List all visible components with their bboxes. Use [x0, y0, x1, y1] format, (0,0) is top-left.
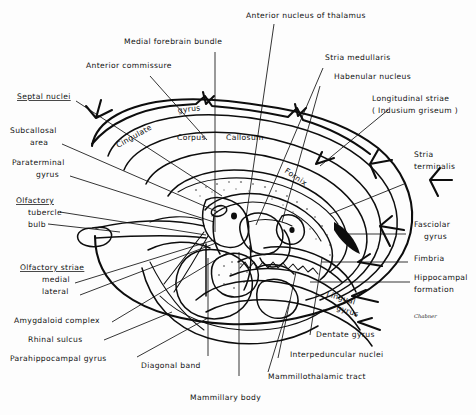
- label-olfactory-bulb: bulb: [28, 220, 46, 229]
- stria-medullaris-strand: [248, 220, 292, 226]
- spike-lower-right: [358, 318, 380, 330]
- label-lingual-gyrus-2: gyrus: [335, 303, 360, 318]
- label-medial-forebrain-bundle: Medial forebrain bundle: [124, 37, 222, 46]
- fornix-column-left: [213, 216, 220, 254]
- label-parahippocampal-gyrus: Parahippocampal gyrus: [10, 354, 107, 363]
- label-olfactory-striae-medial: medial: [42, 275, 70, 284]
- corpus-callosum-outer-margin: [146, 152, 367, 300]
- habenular-dot: [289, 227, 294, 233]
- label-stria-terminalis-line1: Stria: [414, 150, 433, 159]
- dentate-gyrus-band: [238, 254, 342, 282]
- label-fasciolar-gyrus-line1: Fasciolar: [414, 220, 451, 229]
- label-longitudinal-striae: Longitudinal striae: [372, 94, 449, 103]
- label-cingulate-gyrus-2: gyrus: [177, 103, 201, 115]
- leader-amygdaloid-complex: [112, 253, 227, 322]
- olfactory-tract-lower: [96, 236, 206, 238]
- label-anterior-commissure: Anterior commissure: [86, 61, 172, 70]
- septal-nucleus-dot: [231, 213, 237, 220]
- dentate-gyrus-serration: [240, 262, 318, 274]
- spike-right-outer: [430, 168, 452, 196]
- spike-top-left: [86, 100, 112, 118]
- label-stria-terminalis-line2: terminalis: [414, 162, 455, 171]
- diagram-canvas: Cingulate gyrus Corpus Callosum Fornix L…: [0, 0, 476, 415]
- label-corpus: Corpus: [177, 133, 206, 142]
- label-subcallosal-area-line1: Subcallosal: [10, 126, 57, 135]
- label-rhinal-sulcus: Rhinal sulcus: [28, 335, 83, 344]
- leader-rhinal-sulcus: [104, 312, 172, 340]
- fornix-arc-inner: [212, 202, 321, 241]
- spike-anterior-commissure: [203, 92, 214, 104]
- leader-parahippocampal-gyrus: [137, 318, 208, 357]
- leader-mammillothalamic-tract: [268, 300, 290, 372]
- label-dentate-gyrus: Dentate gyrus: [316, 330, 375, 339]
- spike-stria-terminalis: [370, 150, 392, 178]
- temporal-lobe-ventral-contour: [142, 268, 318, 344]
- label-stria-medullaris: Stria medullaris: [325, 53, 390, 62]
- label-callosum: Callosum: [226, 133, 264, 142]
- limbic-system-figure: Cingulate gyrus Corpus Callosum Fornix L…: [0, 0, 476, 415]
- label-indusium-griseum: ( Indusium griseum ): [372, 106, 458, 115]
- label-paraterminal-gyrus-line2: gyrus: [36, 170, 59, 179]
- leader-paraterminal-gyrus: [70, 176, 214, 222]
- label-septal-nuclei: Septal nuclei: [17, 92, 71, 101]
- label-fornix: Fornix: [283, 166, 309, 188]
- label-olfactory-tubercle: tubercle: [28, 208, 62, 217]
- leader-olfactory-tubercle: [60, 212, 206, 235]
- label-hippocampal-formation-line1: Hippocampal: [414, 273, 468, 282]
- label-mammillary-body: Mammillary body: [190, 393, 261, 402]
- spike-fimbria: [358, 254, 382, 266]
- superior-cortical-ridge: [92, 96, 370, 154]
- in-figure-labels: Cingulate gyrus Corpus Callosum Fornix L…: [115, 103, 438, 319]
- label-interpeduncular-nuclei: Interpeduncular nuclei: [290, 350, 383, 359]
- label-amygdaloid-complex: Amygdaloid complex: [14, 316, 100, 325]
- label-olfactory: Olfactory: [16, 196, 54, 205]
- label-habenular-nucleus: Habenular nucleus: [334, 72, 411, 81]
- spike-fasciolar: [380, 216, 404, 246]
- label-diagonal-band: Diagonal band: [141, 361, 201, 370]
- label-paraterminal-gyrus-line1: Paraterminal: [12, 158, 65, 167]
- leader-longitudinal-striae: [320, 110, 388, 166]
- label-fasciolar-gyrus-line2: gyrus: [424, 232, 447, 241]
- label-olfactory-striae: Olfactory striae: [20, 263, 84, 272]
- artist-signature: Chabner: [414, 313, 437, 319]
- label-fimbria: Fimbria: [414, 254, 444, 263]
- label-subcallosal-area-line2: area: [30, 138, 48, 147]
- label-mammillothalamic-tract: Mammillothalamic tract: [268, 372, 366, 381]
- label-olfactory-striae-lateral: lateral: [42, 287, 69, 296]
- label-anterior-nucleus-of-thalamus: Anterior nucleus of thalamus: [246, 11, 366, 20]
- label-hippocampal-formation-line2: formation: [414, 285, 454, 294]
- leader-stria-medullaris: [256, 68, 323, 225]
